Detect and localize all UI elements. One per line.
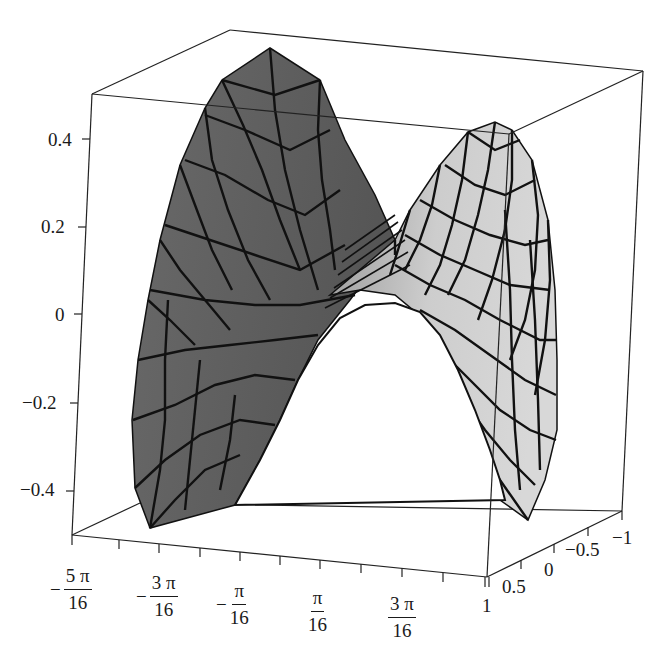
y-tick-label: 0 [544, 560, 554, 579]
y-tick-label: 0.5 [502, 577, 526, 596]
z-tick-label: 0.4 [48, 130, 72, 149]
x-tick-label: − 3 π16 [136, 572, 178, 621]
z-axis-ticks [66, 139, 90, 491]
x-tick-label: π16 [305, 587, 327, 636]
surface-plot [0, 0, 657, 655]
z-tick-label: −0.4 [20, 480, 54, 499]
y-tick-label: −1 [612, 528, 632, 547]
y-tick-label: −0.5 [565, 540, 599, 559]
x-tick-label: 3 π16 [385, 593, 416, 642]
z-tick-label: 0 [55, 305, 65, 324]
x-tick-label: − 5 π16 [50, 565, 92, 614]
x-axis-ticks [72, 535, 489, 587]
x-tick-label: − π16 [216, 580, 249, 629]
y-tick-label: 1 [482, 596, 492, 615]
z-tick-label: 0.2 [41, 217, 65, 236]
z-tick-label: −0.2 [22, 393, 56, 412]
